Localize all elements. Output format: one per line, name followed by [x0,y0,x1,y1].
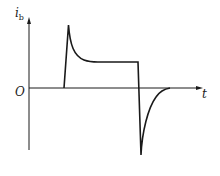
current-waveform [64,25,170,155]
x-axis-label: t [202,88,207,100]
y-axis-arrow-icon [27,17,31,24]
waveform-plot [0,0,220,176]
origin-label: O [15,86,25,98]
y-axis-label-subscript: b [19,13,24,22]
y-axis-label: ib [15,7,24,19]
